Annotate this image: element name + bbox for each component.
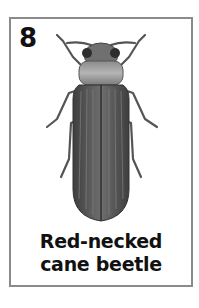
beetle-icon bbox=[11, 19, 191, 229]
species-name-line2: cane beetle bbox=[11, 253, 191, 276]
species-card: 8 bbox=[9, 17, 193, 287]
species-name: Red-necked cane beetle bbox=[11, 230, 191, 276]
species-name-line1: Red-necked bbox=[11, 230, 191, 253]
